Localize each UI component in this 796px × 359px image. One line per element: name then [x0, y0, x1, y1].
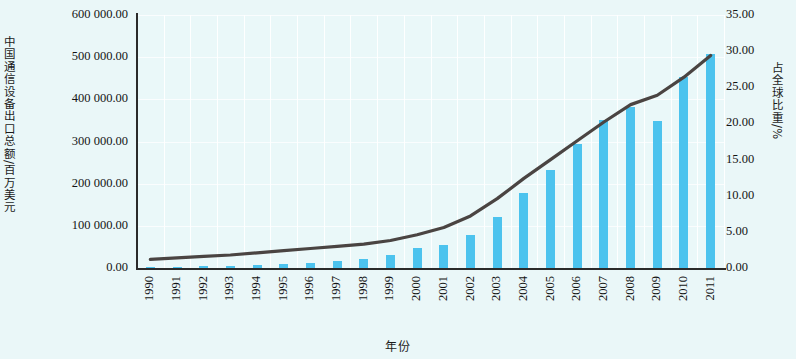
- y-axis-right-tick-label: 30.00: [726, 44, 796, 57]
- line-series: [137, 15, 724, 268]
- plot-area: [137, 15, 724, 268]
- y-axis-left-ticks: 0.00100 000.00200 000.00300 000.00400 00…: [18, 0, 128, 359]
- x-axis-tick-label: 1994: [250, 276, 263, 301]
- y-axis-left-tick-label: 600 000.00: [18, 8, 128, 21]
- x-axis-tick-label: 2011: [704, 276, 717, 301]
- y-axis-right-tick-label: 10.00: [726, 189, 796, 202]
- x-axis-tick-label: 2007: [597, 276, 610, 301]
- x-axis-tick-label: 2001: [437, 276, 450, 301]
- y-axis-right-tick-label: 15.00: [726, 153, 796, 166]
- x-axis-tick-label: 1991: [170, 276, 183, 301]
- x-axis-tick-label: 1990: [143, 276, 156, 301]
- y-axis-right-ticks: 0.005.0010.0015.0020.0025.0030.0035.00: [726, 0, 796, 359]
- x-axis-tick-label: 1995: [277, 276, 290, 301]
- x-axis-tick-label: 1998: [357, 276, 370, 301]
- y-axis-left-spine: [136, 13, 138, 270]
- x-axis-tick-label: 2000: [410, 276, 423, 301]
- x-axis-tick-label: 1993: [223, 276, 236, 301]
- y-axis-left-tick-label: 0.00: [18, 261, 128, 274]
- y-axis-left-tick-label: 200 000.00: [18, 177, 128, 190]
- x-axis-tick-label: 2010: [677, 276, 690, 301]
- y-axis-right-tick-label: 5.00: [726, 225, 796, 238]
- x-axis-tick-label: 2008: [624, 276, 637, 301]
- x-axis-tick-label: 1997: [330, 276, 343, 301]
- y-axis-left-title: 中国通信设备出口总额/百万美元: [2, 36, 14, 286]
- x-axis-spine: [136, 268, 726, 270]
- x-axis-tick-label: 2003: [490, 276, 503, 301]
- x-axis-tick-label: 1996: [303, 276, 316, 301]
- x-axis-tick-label: 2009: [650, 276, 663, 301]
- y-axis-right-tick-label: 0.00: [726, 261, 796, 274]
- y-axis-right-tick-label: 25.00: [726, 80, 796, 93]
- y-axis-left-tick-label: 100 000.00: [18, 219, 128, 232]
- y-axis-left-tick-label: 400 000.00: [18, 92, 128, 105]
- y-axis-right-tick-label: 20.00: [726, 116, 796, 129]
- chart-figure: 中国通信设备出口总额/百万美元 占全球比重/% 年份 0.00100 000.0…: [0, 0, 796, 359]
- y-axis-right-tick-label: 35.00: [726, 8, 796, 21]
- x-axis-tick-label: 2005: [544, 276, 557, 301]
- x-axis-tick-label: 1992: [197, 276, 210, 301]
- gridline-vertical: [724, 15, 725, 268]
- x-axis-tick-label: 2004: [517, 276, 530, 301]
- y-axis-left-tick-label: 500 000.00: [18, 50, 128, 63]
- x-axis-tick-label: 2002: [464, 276, 477, 301]
- x-axis-tick-label: 1999: [383, 276, 396, 301]
- x-axis-tick-label: 2006: [570, 276, 583, 301]
- y-axis-left-tick-label: 300 000.00: [18, 135, 128, 148]
